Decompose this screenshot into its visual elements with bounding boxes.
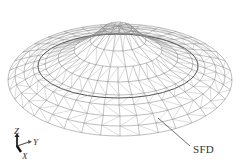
dome-meridians [8,22,232,136]
sfd-label: SFD [193,143,214,155]
axis-z-label: Z [14,126,19,136]
axis-y-label: Y [33,137,38,147]
axis-y-arrowhead [28,140,32,144]
axis-x-arrow [17,146,21,152]
axis-y-arrow [17,142,29,146]
axis-x-label: X [22,151,28,161]
